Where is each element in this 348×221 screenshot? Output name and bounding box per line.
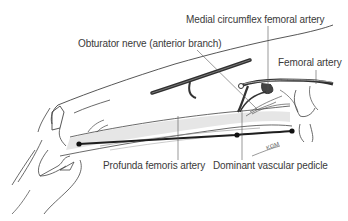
label-profunda-femoris-artery: Profunda femoris artery: [103, 160, 205, 172]
label-femoral-artery: Femoral artery: [278, 57, 342, 69]
label-medial-circumflex-femoral-artery: Medial circumflex femoral artery: [186, 14, 325, 26]
label-obturator-nerve: Obturator nerve (anterior branch): [78, 38, 221, 50]
thigh-illustration: [0, 0, 348, 221]
anatomical-figure: Medial circumflex femoral artery Obturat…: [0, 0, 348, 221]
label-dominant-vascular-pedicle: Dominant vascular pedicle: [213, 160, 328, 172]
